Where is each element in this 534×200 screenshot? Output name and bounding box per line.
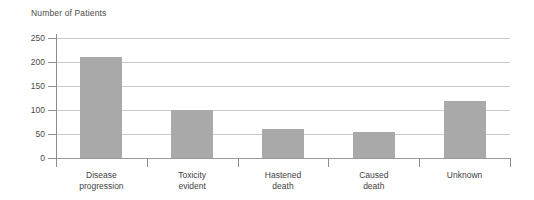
y-axis-tick (48, 38, 56, 39)
y-axis-line (56, 34, 57, 163)
category-tick (147, 158, 148, 167)
bar (262, 129, 304, 158)
category-label: Unknown (419, 170, 510, 181)
gridline (56, 158, 510, 159)
category-label: Caused death (328, 170, 419, 191)
category-label: Toxicity evident (147, 170, 238, 191)
y-axis-tick (48, 110, 56, 111)
y-axis-tick-label: 250 (5, 33, 45, 43)
y-axis-tick-label: 200 (5, 57, 45, 67)
bar (444, 101, 486, 158)
gridline (56, 38, 510, 39)
chart-figure: Number of Patients 050100150200250 Disea… (0, 0, 534, 200)
y-axis-tick-label: 150 (5, 81, 45, 91)
y-axis-tick-label: 50 (5, 129, 45, 139)
category-tick (238, 158, 239, 167)
category-tick (328, 158, 329, 167)
bar (80, 57, 122, 158)
y-axis-tick-label: 100 (5, 105, 45, 115)
gridline (56, 86, 510, 87)
bar (353, 132, 395, 158)
y-axis-tick-label: 0 (5, 153, 45, 163)
category-tick (56, 158, 57, 167)
category-label: Disease progression (56, 170, 147, 191)
gridline (56, 62, 510, 63)
bar (171, 110, 213, 158)
gridline (56, 110, 510, 111)
category-label: Hastened death (238, 170, 329, 191)
y-axis-tick (48, 158, 56, 159)
plot-area: 050100150200250 Disease progressionToxic… (0, 0, 534, 200)
y-axis-tick (48, 86, 56, 87)
category-tick (419, 158, 420, 167)
category-tick (510, 158, 511, 167)
y-axis-tick (48, 62, 56, 63)
y-axis-tick (48, 134, 56, 135)
